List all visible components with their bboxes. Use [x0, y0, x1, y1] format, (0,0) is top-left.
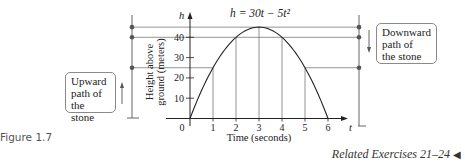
x-axis-label: Time (seconds) [227, 132, 292, 144]
upward-path-label: Upward path of the stone [65, 72, 116, 113]
y-axis-symbol: h [179, 10, 184, 21]
downward-line-3: the stone [382, 50, 431, 62]
svg-text:5: 5 [303, 122, 308, 133]
x-axis-symbol: t [349, 122, 353, 133]
related-exercises: Related Exercises 21–24◀ [332, 147, 461, 162]
tick-labels: 012345610203040 [174, 32, 331, 133]
y-axis-label-line2: ground (meters) [155, 38, 167, 106]
downward-path-label: Downward path of the stone [376, 23, 437, 64]
svg-text:20: 20 [174, 72, 184, 83]
svg-text:6: 6 [326, 122, 331, 133]
downward-line-2: path of [382, 38, 431, 50]
svg-text:40: 40 [174, 32, 184, 43]
downward-line-1: Downward [382, 26, 431, 38]
guide-lines [132, 27, 359, 118]
upward-line-3: the stone [71, 99, 110, 123]
up-arrow-icon [120, 82, 124, 104]
related-exercises-text: Related Exercises 21–24 [332, 147, 450, 161]
upward-line-2: path of [71, 87, 110, 99]
svg-text:1: 1 [211, 122, 216, 133]
svg-text:30: 30 [174, 52, 184, 63]
svg-text:10: 10 [174, 93, 184, 104]
upward-line-1: Upward [71, 75, 110, 87]
down-arrow-icon [367, 30, 371, 53]
figure-label: Figure 1.7 [0, 131, 52, 143]
svg-text:0: 0 [180, 122, 185, 133]
chart-title: h = 30t − 5t² [230, 7, 290, 19]
y-axis-label-line1: Height above [144, 44, 155, 101]
left-triangle-icon: ◀ [453, 149, 461, 160]
